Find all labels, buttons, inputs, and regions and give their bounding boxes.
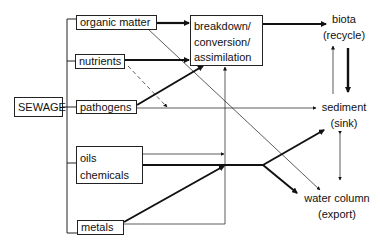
process-line-2: conversion/ [194,35,259,51]
sediment-name: sediment [314,99,374,115]
water-column-role: (export) [294,206,380,222]
biota-role: (recycle) [316,27,372,43]
nutrients-box: nutrients [75,54,125,69]
biota-name: biota [316,11,372,27]
sewage-box: SEWAGE [14,97,63,117]
pathogens-box: pathogens [76,100,137,114]
oils-label: oils [80,150,139,167]
process-line-1: breakdown/ [194,19,259,35]
sediment-role: (sink) [314,115,374,131]
fate-biota: biota (recycle) [316,11,372,43]
chemicals-label: chemicals [80,167,139,184]
fate-sediment: sediment (sink) [314,99,374,131]
process-line-3: assimilation [194,50,259,66]
sewage-fate-diagram: SEWAGE organic matter nutrients pathogen… [0,0,380,241]
organic-matter-box: organic matter [76,15,157,30]
metals-box: metals [77,220,124,235]
breakdown-process-box: breakdown/ conversion/ assimilation [190,15,263,66]
oils-chemicals-box: oils chemicals [76,146,143,184]
fate-water-column: water column (export) [294,190,380,222]
water-column-name: water column [294,190,380,206]
